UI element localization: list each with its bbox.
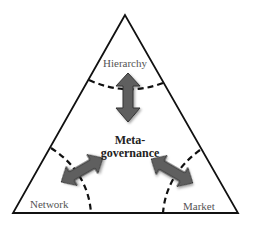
market-label: Market: [183, 201, 215, 212]
meta-governance-label: Meta- governance: [85, 134, 175, 160]
meta-governance-line2: governance: [85, 147, 175, 160]
hierarchy-label: Hierarchy: [103, 58, 147, 69]
network-label: Network: [30, 199, 69, 210]
governance-triangle-diagram: [0, 0, 253, 228]
